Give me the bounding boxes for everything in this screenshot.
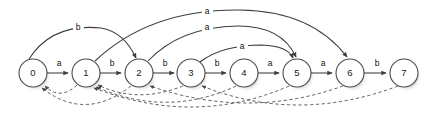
state-label-4: 4	[241, 67, 246, 78]
state-label-0: 0	[30, 67, 35, 78]
suffix-link-4-to-1	[96, 86, 236, 102]
state-node-5[interactable]: 5	[283, 59, 311, 87]
state-node-0[interactable]: 0	[19, 59, 47, 87]
automaton-diagram: a b b b a a b b a a a	[0, 0, 432, 131]
state-label-3: 3	[188, 67, 193, 78]
edge-label-2-to-5: a	[205, 22, 210, 32]
edge-label-3-to-4: b	[215, 58, 220, 68]
edge-label-6-to-7: b	[375, 58, 380, 68]
state-label-7: 7	[401, 67, 406, 78]
edge-label-5-to-6: a	[321, 58, 326, 68]
edge-label-1-to-6: a	[205, 6, 210, 16]
edge-label-1-to-2: b	[110, 58, 115, 68]
state-node-7[interactable]: 7	[390, 59, 418, 87]
state-label-1: 1	[83, 67, 88, 78]
edge-label-4-to-5: a	[268, 58, 273, 68]
transition-2-to-5	[148, 26, 296, 61]
arc-transition-layer	[29, 10, 347, 62]
state-node-2[interactable]: 2	[125, 59, 153, 87]
edge-label-0-to-2: b	[76, 22, 81, 32]
edge-label-layer: a b b b a a b b a a a	[54, 6, 382, 69]
suffix-link-1-to-0	[45, 85, 77, 93]
automaton-canvas: a b b b a a b b a a a	[0, 0, 432, 131]
edge-label-2-to-3: b	[163, 58, 168, 68]
state-label-6: 6	[347, 67, 352, 78]
state-label-2: 2	[136, 67, 141, 78]
state-node-1[interactable]: 1	[72, 59, 100, 87]
state-node-4[interactable]: 4	[230, 59, 258, 87]
edge-label-3-to-5: a	[240, 41, 245, 51]
state-label-5: 5	[294, 67, 299, 78]
state-node-3[interactable]: 3	[177, 59, 205, 87]
state-node-6[interactable]: 6	[336, 59, 364, 87]
transition-1-to-6	[95, 10, 347, 61]
edge-label-0-to-1: a	[57, 58, 62, 68]
